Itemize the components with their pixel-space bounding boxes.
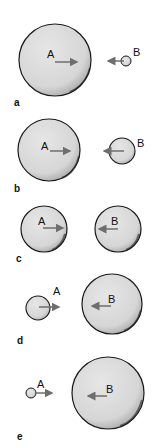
panel-d: A B d [17, 274, 142, 346]
sphere-b-label: B [108, 293, 115, 305]
sphere-a-label: A [53, 285, 61, 297]
panel-label-c: c [16, 253, 22, 264]
sphere-b-label: B [133, 46, 140, 58]
collision-diagram: A B a A B b A B c A B d [0, 0, 152, 448]
sphere-a-label: A [38, 215, 46, 227]
sphere-a-label: A [41, 140, 49, 152]
sphere-a-label: A [47, 48, 55, 60]
sphere-b-label: B [106, 383, 113, 395]
panel-label-b: b [14, 183, 20, 194]
panel-c: A B c [16, 206, 141, 264]
panel-label-d: d [17, 335, 23, 346]
sphere-b-label: B [137, 137, 144, 149]
sphere-b-label: B [111, 215, 118, 227]
sphere-a [26, 388, 36, 398]
panel-b: A B b [14, 119, 144, 194]
panel-label-a: a [14, 97, 20, 108]
sphere-a [26, 296, 50, 320]
sphere-a-label: A [37, 378, 45, 390]
panel-label-e: e [17, 431, 23, 442]
panel-e: A B e [17, 357, 144, 442]
panel-a: A B a [14, 24, 140, 108]
